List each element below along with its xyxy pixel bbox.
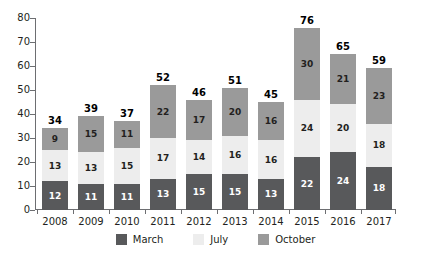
bar-segment-value-label: 15 (229, 187, 242, 197)
bar-group[interactable]: 20161551 (222, 88, 248, 210)
legend-swatch-icon (193, 234, 204, 245)
legend-item-october[interactable]: October (258, 234, 315, 245)
y-axis-tick-label: 50 (6, 85, 30, 95)
bar-segment-value-label: 13 (265, 189, 278, 199)
bar-segment-value-label: 20 (337, 123, 350, 133)
x-axis-tick-label: 2014 (253, 216, 289, 228)
bar-segment-value-label: 15 (121, 161, 134, 171)
chart-legend: MarchJulyOctober (0, 234, 431, 245)
bar-segment-value-label: 15 (85, 129, 98, 139)
bar-segment-value-label: 15 (193, 187, 206, 197)
bar-total-label: 76 (294, 15, 320, 26)
bar-segment-october[interactable]: 30 (294, 28, 320, 100)
bar-segment-march[interactable]: 15 (222, 174, 248, 210)
y-axis-tick-label: 60 (6, 61, 30, 71)
bar-group[interactable]: 21202465 (330, 54, 356, 210)
bar-segment-march[interactable]: 12 (42, 181, 68, 210)
bar-total-label: 39 (78, 103, 104, 114)
bar-segment-value-label: 11 (121, 192, 134, 202)
legend-label: March (133, 234, 163, 245)
bar-segment-value-label: 17 (157, 153, 170, 163)
bar-segment-value-label: 20 (229, 107, 242, 117)
y-axis-tick-mark (30, 210, 35, 211)
y-axis-tick-label: 30 (6, 133, 30, 143)
bar-group[interactable]: 30242276 (294, 28, 320, 210)
bar-segment-march[interactable]: 13 (258, 179, 284, 210)
bar-segment-value-label: 13 (157, 189, 170, 199)
x-axis-tick-label: 2017 (361, 216, 397, 228)
bar-segment-july[interactable]: 20 (330, 104, 356, 152)
bar-segment-march[interactable]: 18 (366, 167, 392, 210)
y-axis-tick-label: 10 (6, 181, 30, 191)
bar-group[interactable]: 17141546 (186, 100, 212, 210)
bar-segment-october[interactable]: 17 (186, 100, 212, 141)
bar-total-label: 59 (366, 55, 392, 66)
bar-total-label: 45 (258, 89, 284, 100)
bar-segment-value-label: 14 (193, 152, 206, 162)
bar-group[interactable]: 23181859 (366, 68, 392, 210)
bar-segment-july[interactable]: 15 (114, 148, 140, 184)
bar-segment-value-label: 13 (49, 161, 62, 171)
bar-segment-value-label: 11 (85, 192, 98, 202)
bar-group[interactable]: 22171352 (150, 85, 176, 210)
bar-segment-july[interactable]: 18 (366, 124, 392, 167)
bar-segment-march[interactable]: 15 (186, 174, 212, 210)
bar-total-label: 52 (150, 72, 176, 83)
stacked-bar-chart: 01020304050607080 2008200920102011201220… (0, 0, 431, 258)
bar-segment-october[interactable]: 11 (114, 121, 140, 147)
bar-total-label: 51 (222, 75, 248, 86)
bar-segment-october[interactable]: 20 (222, 88, 248, 136)
y-axis-tick-label: 0 (6, 205, 30, 215)
bar-segment-july[interactable]: 16 (222, 136, 248, 174)
bar-segment-value-label: 23 (373, 91, 386, 101)
x-axis-tick-mark (395, 209, 396, 214)
bar-segment-value-label: 16 (265, 155, 278, 165)
bar-segment-october[interactable]: 23 (366, 68, 392, 123)
bar-segment-march[interactable]: 11 (114, 184, 140, 210)
bar-segment-march[interactable]: 11 (78, 184, 104, 210)
bar-total-label: 65 (330, 41, 356, 52)
plot-area: 9131234151311391115113722171352171415462… (35, 18, 395, 210)
legend-swatch-icon (116, 234, 127, 245)
bar-segment-october[interactable]: 9 (42, 128, 68, 150)
legend-label: October (275, 234, 315, 245)
legend-item-march[interactable]: March (116, 234, 163, 245)
bar-segment-value-label: 22 (301, 179, 314, 189)
bar-segment-october[interactable]: 15 (78, 116, 104, 152)
x-axis-tick-label: 2011 (145, 216, 181, 228)
bar-segment-october[interactable]: 21 (330, 54, 356, 104)
bar-segment-october[interactable]: 16 (258, 102, 284, 140)
bar-segment-value-label: 11 (121, 129, 134, 139)
y-axis-tick-label: 20 (6, 157, 30, 167)
bar-segment-value-label: 16 (265, 116, 278, 126)
bar-segment-october[interactable]: 22 (150, 85, 176, 138)
bar-segment-july[interactable]: 14 (186, 140, 212, 174)
bar-segment-value-label: 18 (373, 183, 386, 193)
legend-label: July (210, 234, 228, 245)
bar-segment-value-label: 24 (337, 176, 350, 186)
bar-group[interactable]: 9131234 (42, 128, 68, 210)
bar-segment-july[interactable]: 24 (294, 100, 320, 158)
bar-group[interactable]: 15131139 (78, 116, 104, 210)
x-axis-tick-label: 2016 (325, 216, 361, 228)
bar-segment-july[interactable]: 13 (42, 150, 68, 181)
bar-segment-july[interactable]: 17 (150, 138, 176, 179)
x-axis-tick-label: 2015 (289, 216, 325, 228)
y-axis-tick-label: 80 (6, 13, 30, 23)
x-axis-tick-label: 2013 (217, 216, 253, 228)
bar-segment-value-label: 13 (85, 163, 98, 173)
bar-segment-march[interactable]: 13 (150, 179, 176, 210)
bar-segment-march[interactable]: 22 (294, 157, 320, 210)
bar-group[interactable]: 11151137 (114, 121, 140, 210)
bar-segment-value-label: 12 (49, 191, 62, 201)
y-axis-tick-label: 70 (6, 37, 30, 47)
bar-segment-july[interactable]: 16 (258, 140, 284, 178)
legend-item-july[interactable]: July (193, 234, 228, 245)
bar-segment-july[interactable]: 13 (78, 152, 104, 183)
bar-segment-value-label: 17 (193, 115, 206, 125)
bar-segment-march[interactable]: 24 (330, 152, 356, 210)
x-axis-tick-label: 2009 (73, 216, 109, 228)
y-axis-tick-label: 40 (6, 109, 30, 119)
bar-group[interactable]: 16161345 (258, 102, 284, 210)
x-axis-tick-label: 2012 (181, 216, 217, 228)
